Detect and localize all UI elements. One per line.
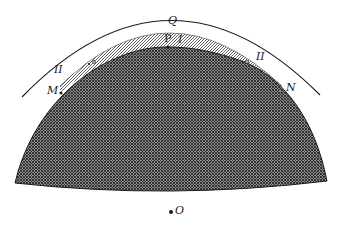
left-II-dot <box>88 63 90 65</box>
label-II-right: II <box>256 51 265 62</box>
label-II-left: II <box>54 64 63 75</box>
point-P-dot <box>166 45 169 48</box>
label-P: P <box>164 33 171 44</box>
label-O: O <box>175 205 184 216</box>
label-M: M <box>47 85 58 96</box>
point-N-marker <box>279 90 282 93</box>
point-M-dot <box>60 92 63 95</box>
label-Q: Q <box>168 15 177 26</box>
label-N: N <box>286 82 296 93</box>
point-O-dot <box>169 210 173 214</box>
left-II-marker <box>93 61 96 64</box>
label-I: I <box>178 34 182 45</box>
right-II-marker <box>246 61 249 64</box>
